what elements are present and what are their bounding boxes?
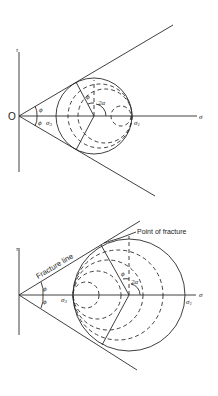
phi-arc-radius — [88, 103, 94, 104]
phi-label-radius: ϕ — [86, 93, 90, 101]
fracture-line-lower — [19, 295, 137, 370]
phi-arc-lower — [35, 116, 37, 126]
sigma1-label: σ1 — [134, 119, 140, 127]
phi-label-upper: ϕ — [39, 106, 43, 114]
sigma-label: σ — [199, 113, 203, 121]
fracture-line-label: Fracture line — [34, 252, 74, 281]
lower-envelope-line — [19, 116, 155, 196]
sigma1-label: σ1 — [186, 298, 192, 306]
phi-label-lower: ϕ — [43, 298, 47, 306]
radius-upper — [76, 82, 94, 116]
mohr-diagram-canvas: O τ σ ϕ ϕ σ3 σ1 ϕ 2α τ σ ϕ ϕ σ3 σ1 — [0, 0, 218, 396]
two-alpha-label: 2α — [98, 99, 106, 107]
top-figure: O τ σ ϕ ϕ σ3 σ1 ϕ 2α — [8, 25, 203, 196]
radius-upper — [101, 245, 129, 295]
bottom-figure: τ σ ϕ ϕ σ3 σ1 ϕ 2α Fracture line Point o… — [16, 221, 203, 370]
phi-label-radius: ϕ — [121, 270, 125, 278]
phi-label-upper: ϕ — [43, 285, 47, 293]
point-of-fracture-label: Point of fracture — [137, 228, 187, 235]
two-alpha-label: 2α — [131, 278, 139, 286]
origin-label: O — [8, 111, 16, 122]
upper-envelope-line — [19, 25, 173, 116]
phi-arc-upper — [35, 106, 37, 116]
phi-label-lower: ϕ — [38, 119, 42, 127]
sigma-label: σ — [199, 291, 203, 299]
sigma3-label: σ3 — [46, 119, 52, 127]
fracture-line-upper — [19, 221, 140, 295]
sigma3-label: σ3 — [61, 296, 67, 304]
radius-lower — [102, 295, 129, 345]
